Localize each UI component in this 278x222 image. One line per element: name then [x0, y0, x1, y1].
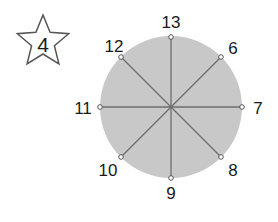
point-marker-8	[219, 155, 224, 160]
point-marker-10	[119, 155, 124, 160]
point-label: 8	[228, 162, 237, 179]
star-number: 4	[37, 34, 49, 55]
point-label: 13	[162, 14, 181, 31]
point-label: 9	[166, 185, 175, 202]
point-marker-9	[169, 176, 174, 181]
point-marker-11	[98, 105, 103, 110]
point-label: 11	[74, 100, 92, 117]
point-marker-13	[169, 35, 174, 40]
circle-diagram	[98, 35, 245, 181]
point-label: 12	[105, 38, 124, 55]
point-label: 7	[253, 100, 262, 117]
point-marker-7	[240, 105, 245, 110]
diagram-stage: 4 136789101112	[0, 0, 278, 222]
point-label: 10	[99, 162, 118, 179]
point-marker-6	[219, 55, 224, 60]
point-label: 6	[228, 40, 237, 57]
